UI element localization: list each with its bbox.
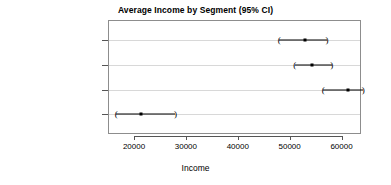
x-axis-title: Income <box>0 163 391 173</box>
confidence-interval-lower-cap: ( <box>322 86 325 95</box>
x-axis-tick-label: 50000 <box>279 142 301 151</box>
confidence-interval-bar <box>323 90 363 91</box>
x-axis-tick-label: 30000 <box>175 142 197 151</box>
estimate-point <box>311 64 314 67</box>
confidence-interval-lower-cap: ( <box>293 61 296 70</box>
confidence-interval-upper-cap: ) <box>325 36 328 45</box>
confidence-interval-bar <box>116 114 175 115</box>
plot-area <box>108 20 361 134</box>
x-axis-tick-label: 40000 <box>227 142 249 151</box>
confidence-interval-lower-cap: ( <box>115 110 118 119</box>
estimate-point <box>346 89 349 92</box>
y-axis-tick <box>102 90 108 91</box>
confidence-interval-upper-cap: ) <box>174 110 177 119</box>
y-axis-tick <box>102 65 108 66</box>
y-axis-tick <box>102 114 108 115</box>
y-axis-tick <box>102 40 108 41</box>
x-axis-tick-label: 60000 <box>330 142 352 151</box>
x-axis-line <box>134 136 342 137</box>
confidence-interval-upper-cap: ) <box>330 61 333 70</box>
estimate-point <box>139 113 142 116</box>
x-axis-tick-label: 20000 <box>123 142 145 151</box>
confidence-interval-upper-cap: ) <box>362 86 365 95</box>
estimate-point <box>304 39 307 42</box>
x-axis-tick <box>342 136 343 140</box>
confidence-interval-lower-cap: ( <box>278 36 281 45</box>
chart-title: Average Income by Segment (95% CI) <box>0 5 391 15</box>
chart-container: Average Income by Segment (95% CI) Segme… <box>0 0 391 185</box>
